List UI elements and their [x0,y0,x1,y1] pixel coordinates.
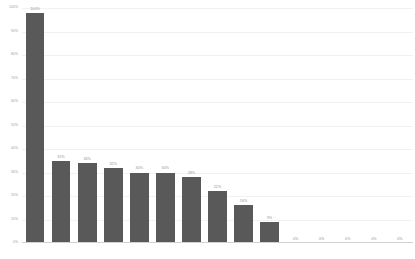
bar-slot: 9% [257,8,283,243]
y-axis-tick-label: 70% [11,77,18,80]
bar-value-label: 0% [293,238,298,242]
bar-value-label: 100% [30,8,40,12]
bar-slot: 0% [361,8,387,243]
bar [208,191,227,243]
y-axis-tick-label: 60% [11,100,18,103]
y-axis-tick-label: 0% [13,241,18,244]
bar-slot: 30% [152,8,178,243]
bar [260,222,279,243]
bar-slot: 0% [283,8,309,243]
y-axis-tick-label: 20% [11,194,18,197]
x-axis-baseline [22,242,413,243]
bar [156,173,175,244]
bar [52,161,71,243]
bar-slot: 100% [22,8,48,243]
bar-value-label: 0% [345,238,350,242]
y-axis: 100%90%80%70%60%50%40%30%20%10%0% [0,0,22,259]
bar-value-label: 30% [162,167,170,171]
bar [130,173,149,244]
bar-slot: 28% [178,8,204,243]
y-axis-tick-label: 90% [11,30,18,33]
bar-slot: 0% [335,8,361,243]
bar-slot: 34% [74,8,100,243]
bar-value-label: 16% [240,200,248,204]
bar-value-label: 35% [57,156,65,160]
bar-value-label: 0% [371,238,376,242]
bar [234,205,253,243]
bar-slot: 35% [48,8,74,243]
bar [26,13,45,243]
bar [78,163,97,243]
plot-area: 100%35%34%32%30%30%28%22%16%9%0%0%0%0%0% [22,8,413,243]
bar-value-label: 9% [267,217,272,221]
bar-value-label: 34% [83,158,91,162]
bar-slot: 0% [387,8,413,243]
y-axis-tick-label: 40% [11,147,18,150]
y-axis-tick-label: 80% [11,53,18,56]
bar-value-label: 0% [319,238,324,242]
bar-value-label: 32% [109,163,117,167]
y-axis-tick-label: 10% [11,218,18,221]
bar-value-label: 28% [188,172,196,176]
bar-slot: 22% [204,8,230,243]
bar-slot: 0% [309,8,335,243]
y-axis-tick-label: 50% [11,124,18,127]
y-axis-tick-label: 30% [11,171,18,174]
bar [182,177,201,243]
bar-slot: 32% [100,8,126,243]
bar [104,168,123,243]
bar-slot: 30% [126,8,152,243]
bar-series: 100%35%34%32%30%30%28%22%16%9%0%0%0%0%0% [22,8,413,243]
bar-value-label: 22% [214,186,222,190]
bar-value-label: 30% [136,167,144,171]
bar-value-label: 0% [397,238,402,242]
bar-slot: 16% [231,8,257,243]
bar-chart: 100%90%80%70%60%50%40%30%20%10%0% 100%35… [0,0,415,259]
y-axis-tick-label: 100% [9,6,18,9]
